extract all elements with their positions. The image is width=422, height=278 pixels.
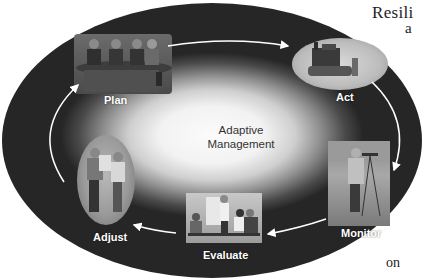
body-text-fragment: on: [386, 255, 400, 271]
arrow-evaluate-to-adjust: [134, 225, 176, 233]
stage-label-act: Act: [336, 91, 354, 103]
stage-label-adjust: Adjust: [93, 231, 127, 243]
arrow-act-to-monitor: [372, 82, 400, 170]
page-title-fragment-2: a: [405, 20, 412, 37]
arrow-monitor-to-evaluate: [268, 219, 326, 234]
arrow-plan-to-act: [168, 41, 288, 46]
arrow-adjust-to-plan: [50, 85, 78, 182]
stage-label-monitor: Monitor: [341, 227, 381, 239]
stage-label-evaluate: Evaluate: [203, 249, 248, 261]
center-label-line2: Management: [196, 137, 286, 151]
center-label-line1: Adaptive: [196, 123, 286, 137]
center-label: Adaptive Management: [196, 123, 286, 151]
stage-label-plan: Plan: [104, 94, 127, 106]
